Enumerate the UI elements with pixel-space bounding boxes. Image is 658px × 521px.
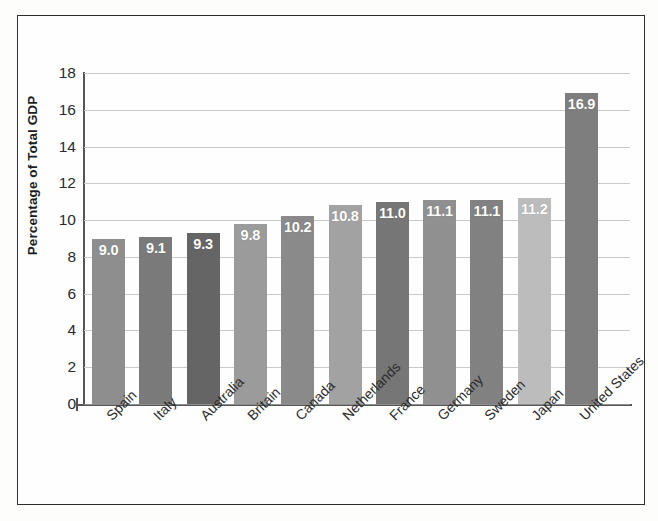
bar-value-label: 11.2 bbox=[518, 201, 551, 217]
figure-root: Percentage of Total GDP 024681012141618 … bbox=[0, 0, 658, 521]
y-tick-label-14: 14 bbox=[48, 139, 76, 155]
bar-value-label: 11.1 bbox=[423, 203, 456, 219]
bar-spain[interactable]: 9.0 bbox=[92, 239, 125, 405]
y-tick-label-0: 0 bbox=[48, 396, 76, 412]
gridline-18 bbox=[84, 73, 630, 74]
y-tick-label-18: 18 bbox=[48, 65, 76, 81]
bar-united-states[interactable]: 16.9 bbox=[565, 93, 598, 404]
y-axis-title: Percentage of Total GDP bbox=[25, 81, 40, 271]
bar-italy[interactable]: 9.1 bbox=[139, 237, 172, 404]
y-tick-label-4: 4 bbox=[48, 322, 76, 338]
gridline-16 bbox=[84, 110, 630, 111]
bar-value-label: 9.8 bbox=[234, 227, 267, 243]
y-tick-label-16: 16 bbox=[48, 102, 76, 118]
bar-japan[interactable]: 11.2 bbox=[518, 198, 551, 404]
bar-value-label: 9.3 bbox=[187, 236, 220, 252]
bar-australia[interactable]: 9.3 bbox=[187, 233, 220, 404]
bar-value-label: 16.9 bbox=[565, 96, 598, 112]
bar-canada[interactable]: 10.2 bbox=[281, 216, 314, 404]
y-tick-label-6: 6 bbox=[48, 286, 76, 302]
y-tick-label-12: 12 bbox=[48, 175, 76, 191]
bar-value-label: 10.2 bbox=[281, 219, 314, 235]
bar-germany[interactable]: 11.1 bbox=[423, 200, 456, 404]
gridline-12 bbox=[84, 183, 630, 184]
bar-value-label: 11.0 bbox=[376, 205, 409, 221]
bar-netherlands[interactable]: 10.8 bbox=[329, 205, 362, 404]
bar-value-label: 9.0 bbox=[92, 242, 125, 258]
x-axis-tick-labels: SpainItalyAustraliaBritainCanadaNetherla… bbox=[0, 412, 658, 517]
bar-value-label: 11.1 bbox=[470, 203, 503, 219]
origin-tick-mark bbox=[76, 398, 78, 411]
y-tick-label-8: 8 bbox=[48, 249, 76, 265]
bar-value-label: 9.1 bbox=[139, 240, 172, 256]
gridline-14 bbox=[84, 147, 630, 148]
y-tick-label-10: 10 bbox=[48, 212, 76, 228]
plot-area: 9.09.19.39.810.210.811.011.111.111.216.9 bbox=[84, 73, 630, 404]
y-tick-label-2: 2 bbox=[48, 359, 76, 375]
bar-value-label: 10.8 bbox=[329, 208, 362, 224]
